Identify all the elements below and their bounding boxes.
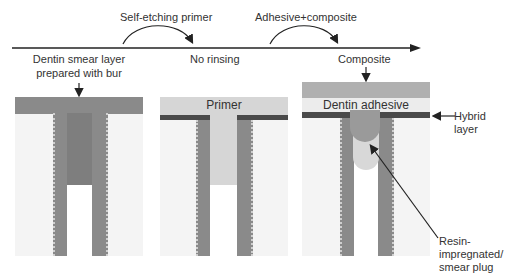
annotation-arrows: [0, 0, 509, 274]
plug-label-line3: smear plug: [439, 261, 493, 274]
hybrid-label-line2: layer: [454, 123, 478, 136]
plug-arrow-icon: [371, 146, 438, 238]
plug-label-line1: Resin-: [439, 235, 471, 248]
hybrid-label-line1: Hybrid: [454, 110, 486, 123]
plug-label-line2: impregnated/: [439, 248, 503, 261]
